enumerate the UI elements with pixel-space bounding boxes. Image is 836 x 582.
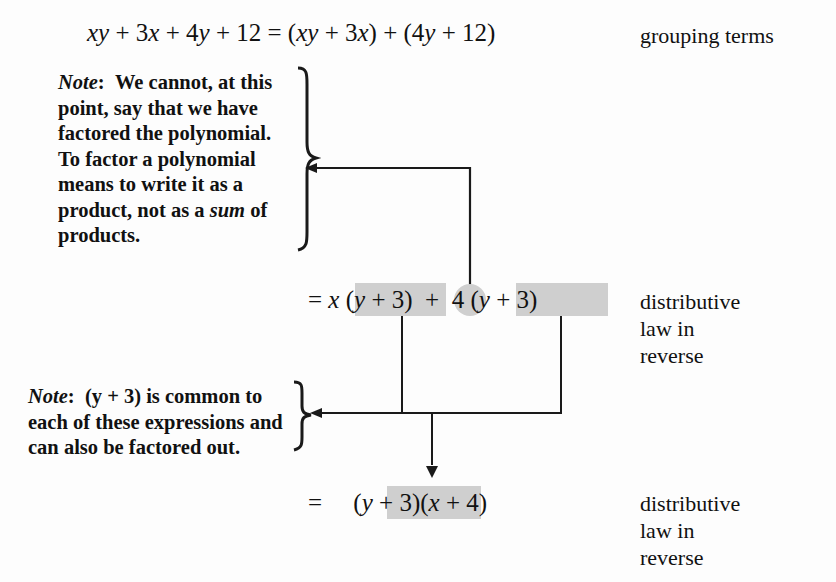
note-1-line-1: We cannot, at this (115, 71, 272, 93)
arrow-plus-to-note-1 (300, 160, 480, 300)
note-1-tag: Note (58, 71, 98, 93)
arrowhead-to-result (423, 462, 441, 482)
note-2-tag: Note (28, 385, 68, 407)
arrowhead-bus-to-note-2 (308, 404, 330, 422)
note-2-line-3: can also be factored out. (28, 436, 240, 458)
note-1-colon: : (98, 71, 105, 93)
note-1-line-6b: of (245, 199, 267, 221)
note-2-colon: : (68, 385, 75, 407)
equation-line-1: xy + 3x + 4y + 12 = (xy + 3x) + (4y + 12… (87, 20, 495, 45)
equation-line-2: = x (y + 3) + 4 (y + 3) (308, 287, 537, 312)
connector-stem-to-result (431, 413, 433, 465)
label-distributive-law-reverse-1: distributive law in reverse (640, 288, 740, 369)
note-1-line-6a: product, not as a (58, 199, 210, 221)
label-grouping-terms: grouping terms (640, 22, 774, 49)
note-2-line-2: each of these expressions and (28, 411, 283, 433)
connector-bus-horizontal (318, 412, 562, 414)
note-1-line-2: point, say that we have (58, 97, 258, 119)
equation-line-3: = (y + 3)(x + 4) (308, 490, 487, 515)
note-1-line-5: means to write it as a (58, 173, 243, 195)
note-2-line-1: (y + 3) is common to (85, 385, 262, 407)
connector-stem-group1 (401, 316, 403, 414)
note-1-emphasis: sum (210, 199, 245, 221)
note-1-line-4: To factor a polynomial (58, 148, 256, 170)
connector-stem-group2 (560, 316, 562, 414)
label-distributive-law-reverse-2: distributive law in reverse (640, 490, 740, 571)
note-1-line-7: products. (58, 224, 140, 246)
note-1: Note: We cannot, at this point, say that… (58, 70, 308, 249)
math-figure: xy + 3x + 4y + 12 = (xy + 3x) + (4y + 12… (0, 0, 836, 582)
note-2: Note: (y + 3) is common to each of these… (28, 384, 298, 461)
note-1-line-3: factored the polynomial. (58, 122, 271, 144)
